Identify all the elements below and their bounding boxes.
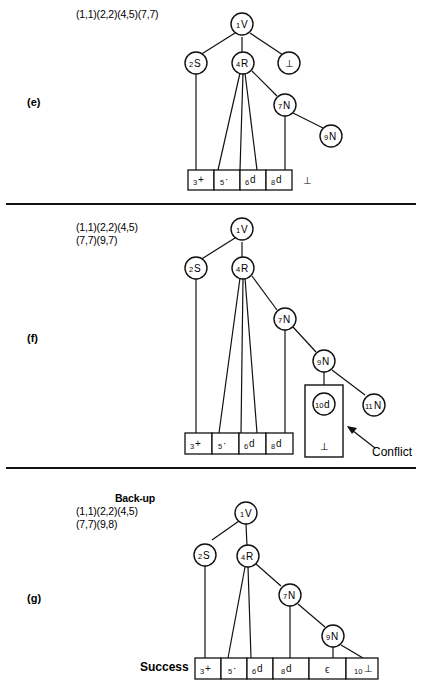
cell-3-sym: d [250, 174, 256, 185]
conflict-arrow-icon [347, 426, 375, 448]
cell-4-sym: d [276, 174, 282, 185]
node-2S[interactable]: 2 S [185, 257, 207, 279]
cell-2-sym: · [223, 438, 226, 449]
node-7N-sym: N [283, 314, 290, 325]
edge-7N-9N [293, 327, 316, 352]
cell-2-num: 5 [228, 667, 232, 676]
success-label: Success [140, 660, 189, 674]
node-1V[interactable]: 1 V [231, 13, 253, 35]
node-1V-sym: V [245, 508, 252, 519]
node-7N-sym: N [283, 100, 290, 111]
cell-2-sym: · [233, 663, 236, 674]
conflict-box-symbol: ⊥ [320, 441, 329, 452]
cell-3-num: 6 [245, 178, 249, 187]
node-2S[interactable]: 2 S [185, 52, 207, 74]
node-7N-num: 7 [278, 316, 282, 325]
cell-1-num: 3 [190, 442, 194, 451]
cell-1-sym: + [198, 174, 204, 185]
node-2S-sym: S [194, 58, 201, 69]
cell-2-sym: · [225, 174, 228, 185]
tree-diagram-f: 1 V 2 S 4 R 7 N 9 N [0, 205, 424, 470]
edge-4R-cell2b [241, 278, 243, 433]
node-9N-sym: N [329, 131, 336, 142]
cell-3-sym: d [249, 438, 255, 449]
node-2S[interactable]: 2 S [194, 544, 216, 566]
cell-6-num: 10 [354, 667, 362, 676]
cell-3-num: 6 [244, 442, 248, 451]
node-1V-sym: V [241, 19, 248, 30]
chart-row-e-trailing-symbol: ⊥ [303, 175, 312, 186]
node-4R[interactable]: 4 R [237, 545, 259, 567]
edge-4R-cell2 [228, 567, 245, 658]
edge-4R-cell2 [219, 278, 240, 433]
node-2S-sym: S [194, 263, 201, 274]
node-7N[interactable]: 7 N [279, 584, 301, 606]
edge-4R-cell2b [240, 73, 243, 170]
node-7N-sym: N [288, 590, 295, 601]
node-7N-num: 7 [283, 592, 287, 601]
tree-diagram-g: 1 V 2 S 4 R 7 N 9 N [0, 470, 424, 699]
node-1V-sym: V [241, 224, 248, 235]
edge-1V-2S [212, 521, 239, 540]
node-2S-num: 2 [189, 60, 193, 69]
node-2S-sym: S [203, 550, 210, 561]
edge-4R-cell3 [245, 278, 257, 433]
edge-4R-7N [252, 71, 277, 96]
panel-f: (f) (1,1)(2,2)(4,5) (7,7)(9,7) 1 V [0, 205, 424, 470]
cell-2-num: 5 [220, 178, 224, 187]
cell-1-sym: + [205, 663, 211, 674]
edge-4R-cell3 [245, 73, 257, 170]
cell-2-num: 5 [218, 442, 222, 451]
node-10d[interactable]: 10 d [313, 393, 335, 415]
node-7N[interactable]: 7 N [274, 94, 296, 116]
node-1V[interactable]: 1 V [231, 218, 253, 240]
cell-5-sym: ϵ [325, 664, 330, 675]
node-2S-num: 2 [198, 552, 202, 561]
cell-6-sym: ⊥ [364, 663, 373, 674]
node-4R-num: 4 [236, 60, 240, 69]
cell-1-num: 3 [200, 667, 204, 676]
edge-4R-7N [256, 564, 281, 586]
node-10d-sym: d [324, 399, 330, 410]
node-11N-num: 11 [365, 402, 373, 411]
node-bottom-symbol[interactable]: ⊥ [278, 52, 300, 74]
node-7N[interactable]: 7 N [274, 308, 296, 330]
node-11N-sym: N [374, 400, 381, 411]
node-4R[interactable]: 4 R [232, 52, 254, 74]
cell-4-sym: d [276, 438, 282, 449]
panel-e: (e) (1,1)(2,2)(4,5)(7,7) 1 V 2 [0, 0, 424, 205]
tree-edges-e [196, 33, 323, 170]
cell-4-num: 8 [271, 442, 275, 451]
edge-7N-9N [298, 604, 325, 627]
tree-nodes-e: 1 V 2 S 4 R ⊥ 7 N [185, 13, 342, 147]
node-4R[interactable]: 4 R [232, 257, 254, 279]
node-4R-sym: R [241, 263, 248, 274]
cell-4-sym: d [286, 663, 292, 674]
edge-4R-cell3 [248, 567, 251, 658]
cell-4-num: 8 [271, 178, 275, 187]
edge-4R-cell2 [218, 73, 240, 170]
edge-1V-2S [200, 33, 235, 55]
panel-g: (g) Back-up (1,1)(2,2)(4,5) (7,7)(9,8) 1… [0, 470, 424, 699]
node-9N[interactable]: 9 N [313, 350, 335, 372]
cell-3-sym: d [257, 663, 263, 674]
node-4R-sym: R [241, 58, 248, 69]
node-9N-sym: N [331, 631, 338, 642]
node-9N[interactable]: 9 N [320, 125, 342, 147]
node-10d-num: 10 [315, 401, 323, 410]
node-9N-num: 9 [324, 133, 328, 142]
conflict-label: Conflict [372, 445, 412, 459]
edge-1V-bot [250, 33, 283, 55]
node-1V[interactable]: 1 V [235, 502, 257, 524]
cell-1-sym: + [195, 438, 201, 449]
node-9N[interactable]: 9 N [322, 625, 344, 647]
node-4R-num: 4 [236, 265, 240, 274]
edge-1V-2S [200, 238, 235, 260]
node-9N-sym: N [322, 356, 329, 367]
node-11N[interactable]: 11 N [363, 394, 385, 416]
node-4R-sym: R [246, 551, 253, 562]
edge-1V-4R [246, 524, 247, 546]
node-2S-num: 2 [189, 265, 193, 274]
edge-9N-cell6 [341, 645, 363, 658]
node-9N-num: 9 [326, 633, 330, 642]
